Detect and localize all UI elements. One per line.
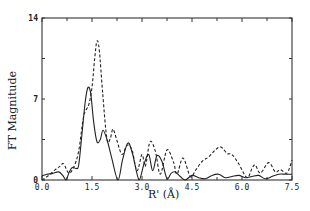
y-tick-label: 14	[28, 14, 38, 23]
x-axis-label: R' (Å)	[148, 188, 179, 201]
y-tick-label: 0	[33, 176, 38, 185]
y-axis-label-container: FT Magnitude	[6, 150, 20, 211]
chart-canvas: 0.01.53.04.56.07.50714	[0, 0, 310, 211]
x-tick-label: 7.5	[285, 183, 300, 192]
x-tick-label: 4.5	[185, 183, 200, 192]
y-tick-label: 7	[33, 95, 38, 104]
y-axis-label: FT Magnitude	[6, 71, 19, 150]
x-tick-label: 1.5	[85, 183, 100, 192]
series-line-solid	[42, 87, 292, 180]
x-tick-label: 6.0	[235, 183, 250, 192]
data-series	[42, 41, 292, 180]
tick-labels: 0.01.53.04.56.07.50714	[28, 14, 299, 192]
